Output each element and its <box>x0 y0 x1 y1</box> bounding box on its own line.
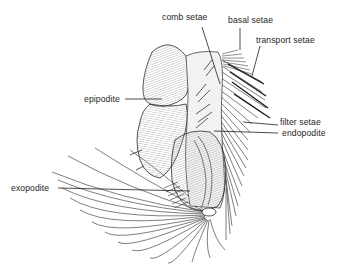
transport-setae <box>228 64 270 118</box>
filter-setae <box>220 60 266 240</box>
label-comb-setae: comb setae <box>162 13 207 22</box>
basal-setae <box>222 50 252 74</box>
label-transport-setae: transport setae <box>256 36 315 45</box>
epipodite-lobe <box>143 45 190 106</box>
endopodite-lobe <box>171 131 226 211</box>
label-basal-setae: basal setae <box>228 16 273 25</box>
leader-exopodite <box>58 188 190 191</box>
label-exopodite: exopodite <box>11 184 49 193</box>
leader-endopodite <box>214 131 278 133</box>
leader-transport-setae <box>252 46 260 76</box>
label-epipodite: epipodite <box>84 95 120 104</box>
label-filter-setae: filter setae <box>280 118 321 127</box>
diagram-figure: comb setae basal setae transport setae e… <box>0 0 339 273</box>
basal-knob <box>202 208 216 216</box>
label-endopodite: endopodite <box>282 129 326 138</box>
leader-filter-setae <box>243 122 278 125</box>
